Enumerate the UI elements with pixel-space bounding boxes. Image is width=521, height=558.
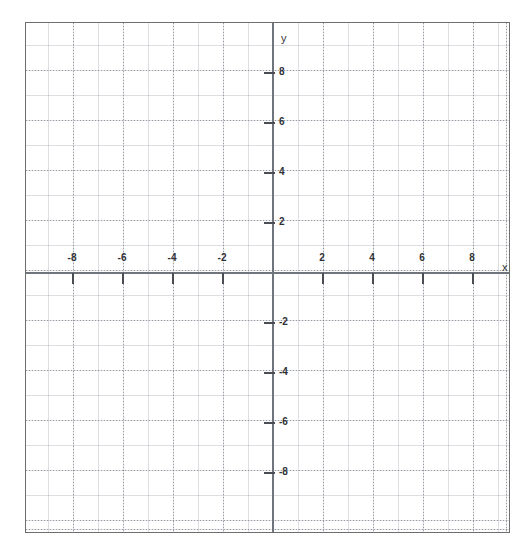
y-tick-label: 4 xyxy=(279,167,285,177)
y-tick-label: -2 xyxy=(279,317,288,327)
x-tick-label: 8 xyxy=(469,253,475,263)
y-axis-line xyxy=(272,23,274,533)
y-tick-mark xyxy=(264,372,275,374)
x-axis-line xyxy=(26,272,510,274)
y-tick-mark xyxy=(264,172,275,174)
y-axis-label: y xyxy=(281,33,287,44)
x-tick-label: 2 xyxy=(319,253,325,263)
y-tick-mark xyxy=(264,422,275,424)
y-tick-mark xyxy=(264,72,275,74)
x-tick-mark xyxy=(372,273,374,284)
x-tick-label: -6 xyxy=(118,253,127,263)
x-tick-label: 6 xyxy=(419,253,425,263)
x-tick-label: -4 xyxy=(168,253,177,263)
y-tick-label: -4 xyxy=(279,367,288,377)
grid-major-horizontal-lines xyxy=(26,23,509,532)
x-tick-label: -8 xyxy=(68,253,77,263)
x-tick-mark xyxy=(172,273,174,284)
x-tick-mark xyxy=(222,273,224,284)
y-tick-label: 8 xyxy=(279,67,285,77)
x-tick-mark xyxy=(472,273,474,284)
x-tick-label: -2 xyxy=(218,253,227,263)
x-tick-mark xyxy=(322,273,324,284)
y-tick-mark xyxy=(264,472,275,474)
x-axis-label: x xyxy=(502,262,508,273)
y-tick-mark xyxy=(264,222,275,224)
y-tick-mark xyxy=(264,122,275,124)
y-tick-label: -6 xyxy=(279,417,288,427)
y-tick-mark xyxy=(264,322,275,324)
y-tick-label: 6 xyxy=(279,117,285,127)
x-tick-mark xyxy=(422,273,424,284)
y-tick-label: 2 xyxy=(279,217,285,227)
x-tick-mark xyxy=(122,273,124,284)
plot-frame xyxy=(25,22,510,533)
y-tick-label: -8 xyxy=(279,467,288,477)
graph-canvas: -8-6-4-22468 -8-6-4-22468 y x xyxy=(0,0,521,558)
x-tick-mark xyxy=(72,273,74,284)
x-tick-label: 4 xyxy=(369,253,375,263)
